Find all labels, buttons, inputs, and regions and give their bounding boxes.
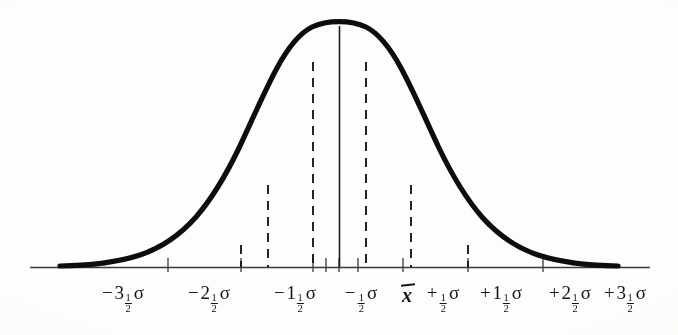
- tick-mark-group: [168, 258, 543, 272]
- normal-distribution-figure: − 3 1 2 σ − 2 1 2 σ − 1 1 2 σ: [0, 0, 678, 335]
- distribution-plot-canvas: [0, 0, 678, 335]
- dropline-group: [241, 62, 468, 267]
